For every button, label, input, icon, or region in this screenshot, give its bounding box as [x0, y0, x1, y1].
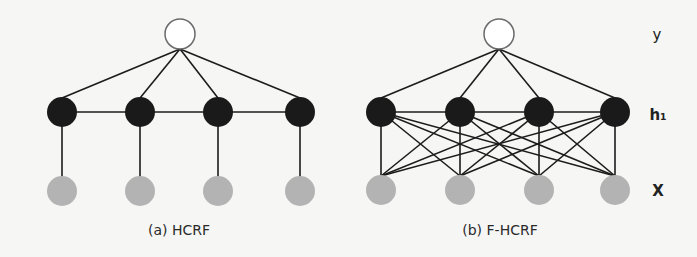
panel-caption-b: (b) F-HCRF [462, 222, 537, 238]
hidden-node [47, 97, 77, 127]
panel-caption-a: (a) HCRF [148, 222, 210, 238]
hidden-node [445, 97, 475, 127]
observed-node [125, 176, 155, 206]
hidden-node [600, 97, 630, 127]
label-to-hidden-edge [140, 49, 180, 98]
observed-node [203, 176, 233, 206]
layer-label: y [653, 26, 662, 44]
label-node-y [484, 19, 514, 49]
hcrf-diagram: (a) HCRF(b) F-HCRFyh₁X [0, 0, 697, 257]
observed-node [445, 175, 475, 205]
layer-label: h₁ [649, 106, 666, 124]
hidden-node [524, 97, 554, 127]
observed-node [366, 175, 396, 205]
label-to-hidden-edge [381, 49, 499, 98]
label-to-hidden-edge [62, 49, 180, 98]
hidden-node [366, 97, 396, 127]
layer-label: X [652, 182, 664, 200]
hidden-node [203, 97, 233, 127]
hidden-node [125, 97, 155, 127]
nodes [47, 19, 630, 206]
hidden-node [285, 97, 315, 127]
label-node-y [165, 19, 195, 49]
labels: (a) HCRF(b) F-HCRFyh₁X [148, 26, 667, 238]
observed-node [600, 175, 630, 205]
label-to-hidden-edge [499, 49, 539, 98]
observed-node [524, 175, 554, 205]
observed-node [47, 176, 77, 206]
observed-node [285, 176, 315, 206]
label-to-hidden-edge [499, 49, 615, 98]
